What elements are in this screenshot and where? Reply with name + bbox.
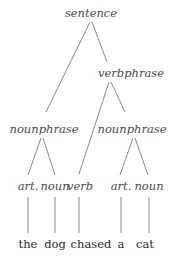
node-noun-1: noun [40, 179, 69, 193]
edge-nounphrase-noun [43, 138, 55, 175]
edge-sentence-nounphrase [46, 22, 90, 112]
parse-tree-diagram: sentence verbphrase nounphrase nounphras… [0, 0, 172, 268]
word-a: a [118, 237, 125, 251]
word-cat: cat [136, 237, 154, 251]
node-nounphrase-subject: nounphrase [10, 122, 79, 136]
node-article-2: art. [111, 179, 132, 193]
word-dog: dog [44, 237, 66, 251]
node-verbphrase: verbphrase [98, 66, 164, 80]
word-chased: chased [71, 237, 112, 251]
edge-sentence-verbphrase [92, 22, 107, 62]
node-verb: verb [67, 179, 93, 193]
node-nounphrase-object: nounphrase [98, 122, 167, 136]
node-noun-2: noun [134, 179, 163, 193]
edge-nounphrase2-art [120, 138, 133, 175]
word-the: the [19, 237, 38, 251]
node-sentence: sentence [65, 6, 117, 20]
edge-verbphrase-nounphrase [111, 82, 125, 112]
node-article-1: art. [18, 179, 39, 193]
edge-nounphrase2-noun [135, 138, 148, 175]
edge-nounphrase-art [28, 138, 41, 175]
